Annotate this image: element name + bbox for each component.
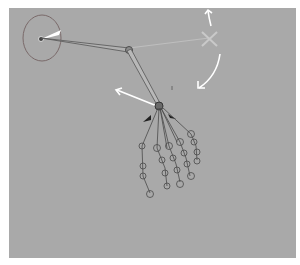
wrist-left-arrow-icon: [143, 115, 151, 122]
rotate-arrow-icon: [198, 54, 220, 88]
move-up-arrow-icon: [205, 10, 212, 26]
3d-viewport[interactable]: [9, 8, 296, 258]
upper-arm-bone[interactable]: [41, 38, 129, 52]
pole-target-x-icon[interactable]: [202, 32, 217, 46]
pole-guide-line: [129, 38, 209, 48]
shoulder-joint[interactable]: [39, 37, 44, 42]
